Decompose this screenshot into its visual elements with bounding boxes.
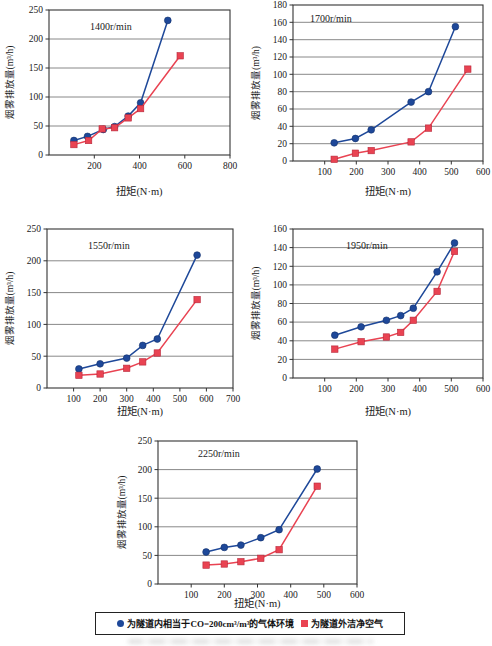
data-point-marker-circle	[123, 355, 130, 362]
data-point-marker-square	[177, 53, 183, 59]
y-tick-label: 0	[147, 579, 152, 589]
data-point-marker-circle	[452, 23, 459, 30]
data-point-marker-circle	[238, 542, 245, 549]
x-axis-label: 扭矩(N·m)	[117, 405, 164, 418]
x-tick-label: 100	[318, 384, 333, 394]
x-tick-label: 300	[120, 394, 135, 404]
data-point-marker-circle	[203, 549, 210, 556]
legend-item-tunnel-outside: 为隧道外洁净空气	[301, 617, 383, 630]
data-point-marker-circle	[139, 342, 146, 349]
y-tick-label: 50	[34, 121, 44, 131]
chart-panel-1700rpm: 0204060801001201401601801002003004005006…	[246, 0, 492, 200]
square-marker-icon	[301, 620, 308, 627]
data-point-marker-square	[203, 562, 209, 568]
data-point-marker-square	[358, 339, 364, 345]
legend-label-tunnel-outside: 为隧道外洁净空气	[311, 617, 383, 630]
data-point-marker-square	[332, 346, 338, 352]
data-point-marker-square	[352, 150, 358, 156]
data-point-marker-square	[99, 126, 105, 132]
x-tick-label: 400	[132, 161, 147, 171]
data-point-marker-square	[97, 371, 103, 377]
data-point-marker-square	[276, 547, 282, 553]
x-tick-label: 500	[444, 384, 459, 394]
data-point-marker-circle	[164, 17, 171, 24]
y-tick-label: 80	[278, 299, 288, 309]
y-tick-label: 180	[273, 0, 288, 10]
series-line-1	[334, 69, 468, 159]
y-tick-label: 50	[32, 352, 42, 362]
y-tick-label: 160	[273, 18, 288, 28]
data-point-marker-square	[137, 105, 143, 111]
data-point-marker-circle	[331, 139, 338, 146]
data-point-marker-square	[238, 559, 244, 565]
data-point-marker-square	[71, 141, 77, 147]
chart-title: 1550r/min	[88, 240, 130, 251]
data-point-marker-circle	[368, 126, 375, 133]
x-tick-label: 200	[93, 394, 108, 404]
data-point-marker-square	[258, 555, 264, 561]
legend-item-tunnel-inside: 为隧道内相当于CO=200cm³/m³的气体环境	[117, 617, 294, 630]
x-tick-label: 600	[199, 394, 214, 404]
y-axis-label: 烟雾排放量(m³/h)	[4, 46, 16, 120]
data-point-marker-square	[140, 359, 146, 365]
y-tick-label: 160	[273, 224, 288, 234]
y-tick-label: 50	[143, 551, 153, 561]
y-tick-label: 100	[273, 70, 288, 80]
data-point-marker-circle	[314, 466, 321, 473]
y-axis-label: 烟雾排放量(m³/h)	[116, 476, 128, 550]
plot-border	[158, 441, 357, 584]
x-tick-label: 200	[87, 161, 102, 171]
data-point-marker-circle	[358, 323, 365, 330]
data-point-marker-square	[85, 137, 91, 143]
y-tick-label: 200	[138, 465, 153, 475]
data-point-marker-square	[125, 115, 131, 121]
y-tick-label: 150	[138, 494, 153, 504]
data-point-marker-circle	[451, 240, 458, 247]
chart-panel-2250rpm: 0501001502002501002003004005006002250r/m…	[112, 436, 372, 612]
y-tick-label: 40	[278, 336, 288, 346]
series-line-0	[334, 27, 455, 143]
y-axis-label: 烟雾排放量(m³/h)	[250, 46, 262, 120]
y-axis-label: 烟雾排放量(m³/h)	[4, 272, 16, 346]
data-point-marker-circle	[276, 526, 283, 533]
data-point-marker-circle	[408, 99, 415, 106]
x-tick-label: 500	[173, 394, 188, 404]
data-point-marker-square	[76, 372, 82, 378]
y-tick-label: 0	[282, 156, 287, 166]
data-point-marker-square	[410, 317, 416, 323]
data-point-marker-square	[221, 561, 227, 567]
x-tick-label: 400	[146, 394, 161, 404]
x-tick-label: 400	[284, 590, 299, 600]
y-tick-label: 100	[273, 280, 288, 290]
x-tick-label: 300	[381, 384, 396, 394]
x-tick-label: 300	[381, 167, 396, 177]
chart-title: 1950r/min	[346, 240, 388, 251]
caption-smudge	[128, 639, 373, 644]
data-point-marker-square	[434, 288, 440, 294]
chart-title: 1400r/min	[90, 21, 132, 32]
chart-canvas: 0501001502002501002003004005006007001550…	[0, 205, 246, 420]
chart-canvas: 0204060801001201401601002003004005006001…	[246, 205, 492, 420]
x-tick-label: 800	[223, 161, 238, 171]
y-axis-label: 烟雾排放量(m³/h)	[250, 267, 262, 341]
data-point-marker-circle	[221, 544, 228, 551]
y-tick-label: 0	[38, 150, 43, 160]
data-point-marker-circle	[352, 135, 359, 142]
y-tick-label: 80	[278, 87, 288, 97]
y-tick-label: 100	[27, 320, 42, 330]
chart-panel-1950rpm: 0204060801001201401601002003004005006001…	[246, 205, 492, 420]
data-point-marker-square	[408, 139, 414, 145]
y-tick-label: 200	[29, 34, 44, 44]
plot-border	[49, 10, 230, 155]
x-tick-label: 700	[226, 394, 241, 404]
chart-panel-1550rpm: 0501001502002501002003004005006007001550…	[0, 205, 246, 420]
chart-canvas: 0501001502002502004006008001400r/min烟雾排放…	[0, 0, 246, 200]
data-point-marker-square	[398, 329, 404, 335]
y-tick-label: 60	[278, 317, 288, 327]
y-tick-label: 150	[27, 288, 42, 298]
y-tick-label: 120	[273, 262, 288, 272]
x-axis-label: 扭矩(N·m)	[116, 185, 163, 198]
legend-label-tunnel-inside: 为隧道内相当于CO=200cm³/m³的气体环境	[127, 617, 294, 630]
y-tick-label: 200	[27, 256, 42, 266]
data-point-marker-circle	[397, 312, 404, 319]
